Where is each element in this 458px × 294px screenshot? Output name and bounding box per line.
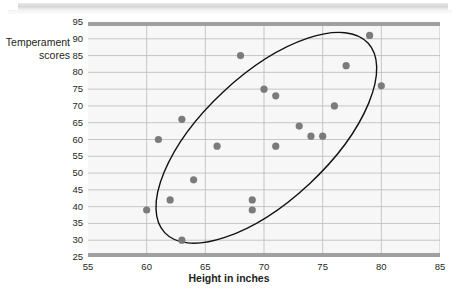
x-axis-tick-label: 65 bbox=[188, 261, 222, 272]
data-point bbox=[343, 62, 350, 69]
grid-lines bbox=[88, 22, 440, 257]
y-axis-tick-label: 95 bbox=[57, 16, 83, 27]
y-axis-tick-label: 30 bbox=[57, 234, 83, 245]
data-point bbox=[260, 86, 267, 93]
y-axis-tick-label: 45 bbox=[57, 184, 83, 195]
y-axis-tick-label: 80 bbox=[57, 66, 83, 77]
data-point bbox=[249, 196, 256, 203]
page-header-band bbox=[18, 3, 448, 10]
data-point bbox=[155, 136, 162, 143]
data-point bbox=[213, 143, 220, 150]
data-point bbox=[307, 133, 314, 140]
data-point bbox=[178, 237, 185, 244]
data-point bbox=[143, 206, 150, 213]
page-header-band-shadow bbox=[8, 10, 452, 14]
data-point bbox=[237, 52, 244, 59]
x-axis-tick-label: 60 bbox=[130, 261, 164, 272]
data-point bbox=[319, 133, 326, 140]
y-axis-tick-label: 85 bbox=[57, 50, 83, 61]
data-point bbox=[178, 116, 185, 123]
scatter-plot-figure: Temperament scores 253035404550556065707… bbox=[0, 0, 458, 294]
y-axis-tick-label: 60 bbox=[57, 134, 83, 145]
x-axis-tick-label: 70 bbox=[247, 261, 281, 272]
data-point bbox=[296, 122, 303, 129]
y-axis-tick-label: 65 bbox=[57, 117, 83, 128]
y-axis-tick-label: 55 bbox=[57, 150, 83, 161]
x-axis-tick-label: 75 bbox=[306, 261, 340, 272]
data-point bbox=[366, 32, 373, 39]
data-point bbox=[272, 92, 279, 99]
y-axis-tick-label: 90 bbox=[57, 33, 83, 44]
y-axis-tick-label: 50 bbox=[57, 167, 83, 178]
data-point bbox=[272, 143, 279, 150]
plot-svg bbox=[88, 22, 440, 257]
y-axis-tick-label: 40 bbox=[57, 201, 83, 212]
y-axis-tick-label: 35 bbox=[57, 217, 83, 228]
y-axis-tick-label: 75 bbox=[57, 83, 83, 94]
x-axis-tick-label: 55 bbox=[71, 261, 105, 272]
x-axis-tick-label: 80 bbox=[364, 261, 398, 272]
data-point bbox=[378, 82, 385, 89]
data-point bbox=[167, 196, 174, 203]
data-point bbox=[331, 102, 338, 109]
x-axis-tick-label: 85 bbox=[423, 261, 457, 272]
x-axis-title: Height in inches bbox=[0, 272, 458, 284]
data-point bbox=[190, 176, 197, 183]
y-axis-tick-label: 70 bbox=[57, 100, 83, 111]
data-point bbox=[249, 206, 256, 213]
plot-area bbox=[88, 22, 440, 257]
